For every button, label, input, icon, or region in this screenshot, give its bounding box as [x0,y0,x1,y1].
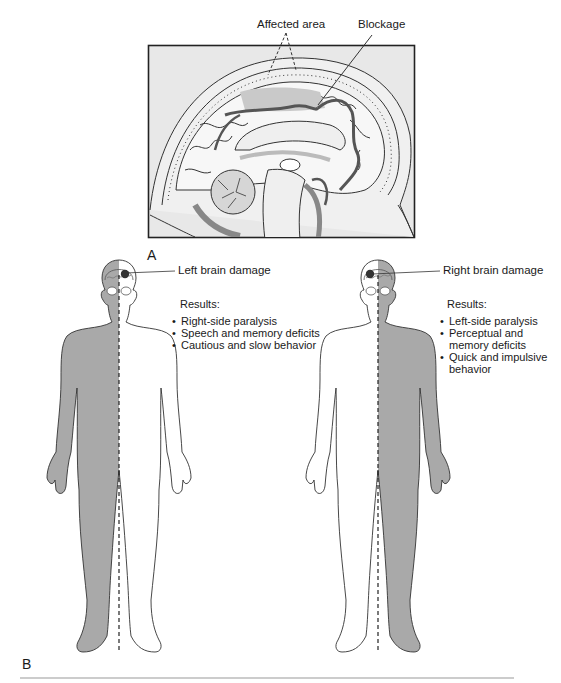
right-figure [306,260,450,652]
list-item-line: memory deficits [449,339,526,351]
left-brain-damage-label: Left brain damage [178,264,271,277]
list-item: Quick and impulsivebehavior [440,351,547,375]
right-brain-damage-label: Right brain damage [443,264,543,277]
list-item: Speech and memory deficits [172,327,320,339]
left-results-heading: Results: [180,298,220,310]
list-item: Left-side paralysis [440,315,547,327]
list-item-line: behavior [449,363,491,375]
list-item-line: Quick and impulsive [449,351,547,363]
list-item: Perceptual andmemory deficits [440,327,547,351]
left-figure [47,260,191,652]
right-results-list: Left-side paralysis Perceptual andmemory… [440,315,547,375]
left-results-list: Right-side paralysis Speech and memory d… [172,315,320,351]
panel-b-letter: B [22,656,31,672]
list-item-line: Perceptual and [449,327,523,339]
list-item: Cautious and slow behavior [172,339,320,351]
right-results-heading: Results: [447,298,487,310]
list-item: Right-side paralysis [172,315,320,327]
